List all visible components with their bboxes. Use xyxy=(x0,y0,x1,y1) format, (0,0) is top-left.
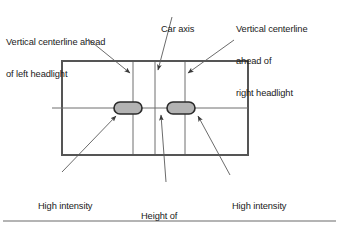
label-height-of-light-centers: Height of light centers xyxy=(141,190,190,227)
label-high-intensity-right: High intensity light area xyxy=(232,180,286,227)
label-line: ahead of xyxy=(236,56,307,67)
label-line: of left headlight xyxy=(6,69,105,80)
label-line: High intensity xyxy=(232,201,286,212)
label-line: High intensity xyxy=(38,201,92,212)
label-right-headlight-centerline: Vertical centerline ahead of right headl… xyxy=(236,3,307,120)
label-high-intensity-left: High intensity light area xyxy=(38,180,92,227)
label-line: Vertical centerline xyxy=(236,24,307,35)
label-line: right headlight xyxy=(236,88,307,99)
headlight-aim-diagram: Vertical centerline ahead of left headli… xyxy=(0,0,339,227)
label-line: Car axis xyxy=(161,24,194,35)
right-headlight xyxy=(167,102,195,114)
label-car-axis: Car axis xyxy=(161,3,194,56)
left-headlight xyxy=(114,102,142,114)
label-line: Vertical centerline ahead xyxy=(6,37,105,48)
label-line: Height of xyxy=(141,211,190,222)
label-left-headlight-centerline: Vertical centerline ahead of left headli… xyxy=(6,16,105,101)
